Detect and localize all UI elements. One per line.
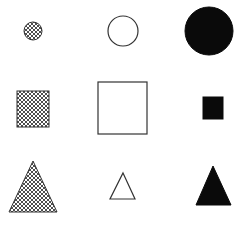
shapes-figure	[0, 0, 248, 225]
shape-layer	[9, 7, 233, 212]
square-outline-large-shape	[98, 82, 147, 134]
circle-outline-medium-shape	[108, 16, 138, 46]
triangle-solid-medium-shape	[196, 166, 231, 205]
triangle-hatched-large-shape	[9, 161, 57, 212]
circle-hatched-small-shape	[24, 22, 42, 40]
triangle-outline-small-shape	[110, 173, 135, 199]
square-solid-small-shape	[203, 97, 223, 119]
circle-solid-large-shape	[185, 7, 233, 55]
square-hatched-medium-shape	[17, 91, 49, 127]
